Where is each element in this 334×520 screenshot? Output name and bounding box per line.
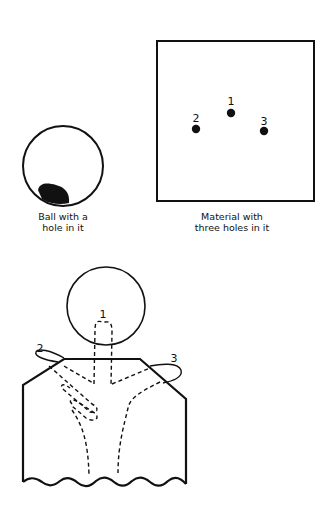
assembly-ball [67,267,145,345]
hole-1 [227,109,235,117]
assembly-figure: 1 2 3 [23,267,186,486]
assembly-label-1: 1 [100,308,107,321]
ball-caption-line1: Ball with a [38,211,88,222]
diagram-canvas: Ball with a hole in it 1 2 3 Material wi… [0,0,334,520]
thread-3-channel [112,368,150,384]
hole-2 [192,125,200,133]
thread-3-down [118,382,160,473]
hole-2-label: 2 [193,112,200,125]
hole-3 [260,127,268,135]
thread-2-dashed-loop-a [49,366,97,412]
material-caption-line1: Material with [201,211,263,222]
material-caption-line2: three holes in it [195,222,270,233]
thread-2-dashed-loop-b [70,400,97,420]
material-figure: 1 2 3 Material with three holes in it [157,41,314,233]
hole-1-label: 1 [228,95,235,108]
assembly-material-outline [23,359,186,484]
assembly-label-2: 2 [37,342,44,355]
assembly-label-3: 3 [171,352,178,365]
material-square [157,41,314,201]
thread-2-down [72,410,89,475]
ball-caption-line2: hole in it [42,222,84,233]
hole-3-label: 3 [261,115,268,128]
thread-2-channel [64,366,93,383]
ball-figure: Ball with a hole in it [23,126,103,233]
assembly-wavy-edge [23,478,186,486]
